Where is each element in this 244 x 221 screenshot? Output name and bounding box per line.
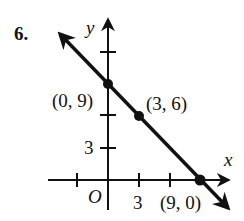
x-tick-label: 3 [133, 192, 143, 213]
problem-number: 6. [14, 23, 28, 44]
point-0-9 [103, 79, 113, 89]
x-axis-label: x [223, 149, 233, 170]
y-axis-label: y [84, 17, 95, 38]
origin-label: O [88, 186, 102, 207]
point-3-6 [134, 111, 144, 121]
point-label-9-0: (9, 0) [160, 192, 201, 214]
point-label-3-6: (3, 6) [146, 93, 187, 115]
y-tick-label: 3 [84, 137, 94, 158]
point-label-0-9: (0, 9) [52, 90, 93, 112]
coordinate-graph: 6. y x O 3 3 (0, 9) (3, 6) (9, 0) [0, 0, 244, 221]
point-9-0 [195, 175, 206, 186]
